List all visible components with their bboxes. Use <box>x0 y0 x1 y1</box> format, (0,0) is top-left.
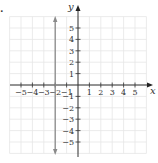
y-tick-label: −2 <box>62 104 74 113</box>
y-tick-label: 2 <box>69 58 74 67</box>
problem-marker: . <box>0 3 3 14</box>
coordinate-plane: −5−4−3−2−11234554321−1−2−3−4−5 x y . <box>0 0 158 163</box>
y-tick-label: 3 <box>69 47 74 56</box>
y-tick-label: −3 <box>62 115 74 124</box>
x-axis-label: x <box>150 85 156 96</box>
y-axis-arrow-icon <box>76 5 81 11</box>
x-tick-label: 3 <box>110 88 115 97</box>
x-tick-label: −4 <box>27 88 39 97</box>
y-tick-label: −4 <box>62 127 74 136</box>
x-tick-label: 2 <box>98 88 103 97</box>
y-tick-label: 5 <box>69 24 74 33</box>
x-tick-label: 1 <box>87 88 92 97</box>
x-tick-label: 4 <box>121 88 126 97</box>
line-arrow-down-icon <box>53 149 57 155</box>
y-axis-label: y <box>67 1 74 12</box>
y-tick-label: −1 <box>62 92 74 101</box>
y-tick-label: 4 <box>69 35 74 44</box>
x-tick-label: −5 <box>15 88 27 97</box>
x-tick-label: −3 <box>38 88 50 97</box>
x-tick-label: 5 <box>132 88 137 97</box>
y-tick-label: −5 <box>62 138 74 147</box>
y-tick-label: 1 <box>69 70 74 79</box>
